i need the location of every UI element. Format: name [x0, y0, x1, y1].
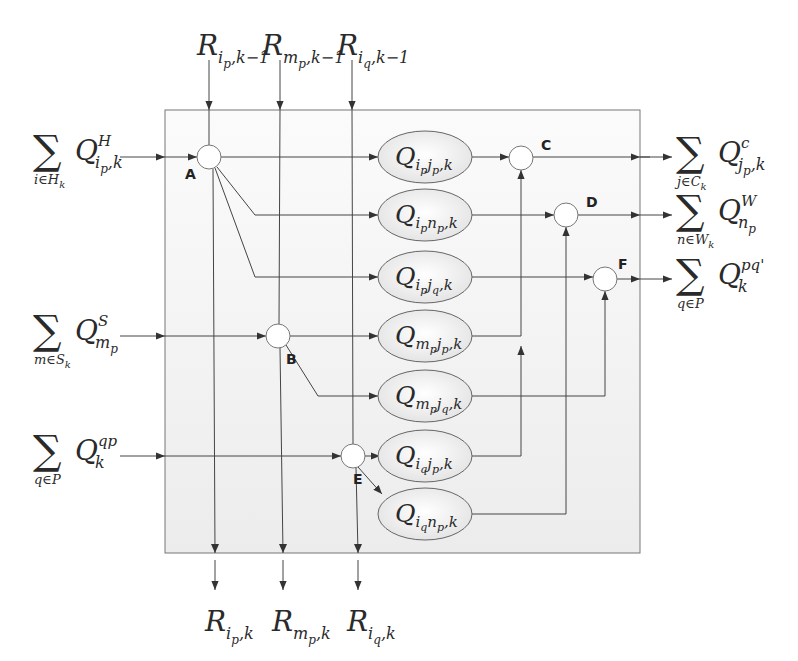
r-label: Rmp,k−1 [261, 29, 344, 71]
svg-text:i∈Hk: i∈Hk [34, 172, 65, 190]
svg-text:ip,k: ip,k [95, 153, 123, 176]
svg-text:q∈P: q∈P [34, 472, 61, 487]
node-label: F [618, 256, 628, 272]
svg-text:n∈Wk: n∈Wk [677, 232, 714, 250]
node-label: B [286, 351, 297, 367]
junction-node-f [593, 267, 617, 291]
r-label: Riq,k [346, 605, 396, 647]
sum-label-sum_pq: ∑q∈PQpq'k [676, 251, 764, 311]
sum-label-sum_qp: ∑q∈PQqpk [33, 427, 118, 487]
sigma-icon: ∑ [33, 127, 62, 173]
r-label: Rip,k [204, 605, 254, 647]
svg-text:mp: mp [95, 333, 118, 356]
r-label: Rip,k−1 [196, 29, 269, 71]
junction-node-c [509, 146, 533, 170]
svg-text:k: k [95, 453, 105, 472]
svg-text:jp,k: jp,k [735, 155, 765, 178]
junction-node-e [341, 444, 365, 468]
sum-label-sum_S: ∑m∈SkQSmp [33, 307, 118, 370]
r-label: Rmp,k [271, 605, 331, 647]
svg-text:q∈P: q∈P [677, 296, 704, 311]
sigma-icon: ∑ [33, 307, 62, 353]
r-label: Riq,k−1 [336, 29, 409, 71]
sum-label-sum_H: ∑i∈HkQHip,k [33, 127, 123, 190]
junction-node-b [266, 324, 290, 348]
svg-text:k: k [738, 277, 748, 296]
node-label: D [586, 194, 598, 210]
sigma-icon: ∑ [676, 129, 705, 175]
junction-node-d [554, 203, 578, 227]
sigma-icon: ∑ [33, 427, 62, 473]
sigma-icon: ∑ [676, 251, 705, 297]
svg-text:np: np [738, 213, 756, 236]
node-label: E [353, 471, 363, 487]
svg-text:m∈Sk: m∈Sk [34, 352, 71, 370]
junction-node-a [197, 145, 221, 169]
node-label: C [541, 137, 551, 153]
sigma-icon: ∑ [676, 187, 705, 233]
node-label: A [185, 166, 196, 182]
sum-label-sum_W: ∑n∈WkQWnp [676, 187, 758, 250]
flow-diagram: Qipjp,kQipnp,kQipjq,kQmpjp,kQmpjq,kQiqjp… [0, 0, 798, 661]
sum-label-sum_C: ∑j∈CkQcjp,k [674, 129, 765, 192]
